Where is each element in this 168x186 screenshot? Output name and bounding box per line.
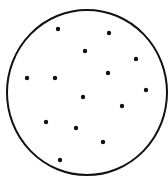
dot xyxy=(101,140,105,144)
boundary-circle xyxy=(7,10,167,175)
dot xyxy=(107,31,111,35)
dot xyxy=(58,158,62,162)
diagram-canvas xyxy=(0,0,168,186)
dot xyxy=(134,57,138,61)
dot xyxy=(106,71,110,75)
dot xyxy=(144,88,148,92)
dot xyxy=(56,27,60,31)
dot xyxy=(81,95,85,99)
dot xyxy=(74,126,78,130)
dot-group xyxy=(25,27,148,162)
dot xyxy=(44,120,48,124)
dot xyxy=(25,76,29,80)
dot xyxy=(120,104,124,108)
dot xyxy=(53,76,57,80)
dot xyxy=(83,49,87,53)
